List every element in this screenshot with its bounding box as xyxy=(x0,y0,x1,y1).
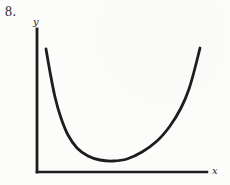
curve-plot: y x xyxy=(0,0,230,185)
textbook-figure: 8. y x xyxy=(0,0,230,185)
y-axis-label: y xyxy=(32,16,39,27)
x-axis-label: x xyxy=(212,165,218,176)
u-curve xyxy=(46,48,200,161)
